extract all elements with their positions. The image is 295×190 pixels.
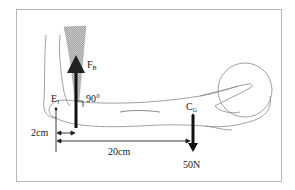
upper-arm-outline xyxy=(44,35,70,118)
dimension-20cm xyxy=(57,139,190,143)
angle-label: 90° xyxy=(86,94,100,104)
biceps-force-label: FB xyxy=(87,60,97,71)
hand-outline xyxy=(200,84,270,127)
dimension-2cm xyxy=(57,131,75,135)
distance-20cm-label: 20cm xyxy=(108,147,130,157)
elbow-joint-label: EJ xyxy=(51,94,59,105)
load-label: 50N xyxy=(183,160,200,170)
distance-2cm-label: 2cm xyxy=(31,128,48,138)
diagram-canvas: FB 90° EJ CG 2cm 20cm 50N xyxy=(0,0,295,190)
load-arrowhead xyxy=(188,143,198,152)
center-gravity-label: CG xyxy=(186,102,197,113)
forearm-diagram xyxy=(0,0,295,190)
